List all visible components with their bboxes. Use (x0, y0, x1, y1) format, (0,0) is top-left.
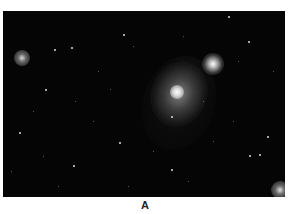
star (45, 89, 47, 91)
star (71, 47, 73, 49)
star (267, 136, 269, 138)
star (153, 151, 154, 152)
star (11, 171, 12, 172)
star (188, 181, 189, 182)
bright-star (202, 53, 224, 75)
star (171, 169, 173, 171)
star (98, 71, 99, 72)
star (233, 121, 234, 122)
star (183, 36, 184, 37)
star (73, 165, 75, 167)
star (273, 71, 274, 72)
star (54, 49, 56, 51)
star (171, 116, 173, 118)
star (133, 46, 134, 47)
galaxy-photograph (3, 11, 285, 197)
bright-star (14, 50, 30, 66)
figure-caption-label: A (0, 199, 290, 211)
bright-star (271, 181, 285, 197)
star (110, 89, 111, 90)
star (93, 121, 94, 122)
star (248, 41, 250, 43)
star (33, 111, 34, 112)
star (75, 101, 76, 102)
star (228, 16, 230, 18)
star (203, 101, 204, 102)
star (19, 132, 21, 134)
star (123, 34, 125, 36)
star (128, 186, 129, 187)
galaxy-core (170, 85, 184, 99)
star (119, 142, 121, 144)
star (213, 141, 214, 142)
star (249, 155, 251, 157)
star (259, 154, 261, 156)
star (238, 61, 239, 62)
star (43, 156, 44, 157)
star (58, 186, 59, 187)
